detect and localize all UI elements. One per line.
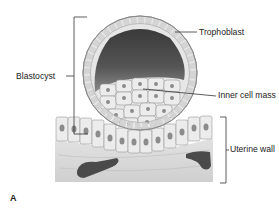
label-trophoblast: Trophoblast xyxy=(199,27,244,37)
label-inner-cell-mass: Inner cell mass xyxy=(218,90,278,100)
uterine-wall-bracket xyxy=(220,117,226,183)
blastocyst-implantation-diagram: Blastocyst Trophoblast Inner cell mass U… xyxy=(0,0,279,209)
blastocyst xyxy=(83,16,197,130)
label-blastocyst: Blastocyst xyxy=(16,71,55,81)
label-uterine-wall: Uterine wall xyxy=(230,144,275,154)
panel-letter: A xyxy=(10,193,17,203)
